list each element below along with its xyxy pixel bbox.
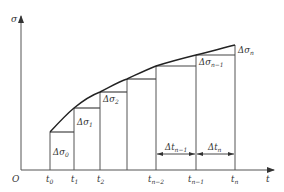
svg-text:Δtn: Δtn [207,142,222,153]
svg-text:t2: t2 [97,174,104,185]
delta-sigma-2-label: Δσ2 [102,94,119,105]
tick-label-t-n-minus-2: tn−2 [148,174,164,185]
tick-label-t0: t0 [46,174,53,185]
delta-t-n-label: Δtn [207,142,222,153]
stress-time-step-diagram: σ t O t0 t1 t2 tn−2 tn−1 tn Δσ0 Δσ1 Δσ2 [0,0,284,192]
svg-text:tn−2: tn−2 [148,174,164,185]
tick-label-t-n: tn [231,174,238,185]
delta-sigma-1-label: Δσ1 [76,117,93,128]
y-axis-label: σ [11,14,18,24]
diagram-canvas: σ t O t0 t1 t2 tn−2 tn−1 tn Δσ0 Δσ1 Δσ2 [0,0,284,192]
svg-text:Δσn−1: Δσn−1 [198,57,224,68]
svg-text:Δσ2: Δσ2 [102,94,119,105]
svg-text:t1: t1 [71,174,78,185]
tick-label-t-n-minus-1: tn−1 [188,174,204,185]
x-axis-label: t [266,174,270,184]
svg-text:Δσn: Δσn [237,45,254,56]
svg-text:t0: t0 [46,174,53,185]
svg-text:tn: tn [231,174,238,185]
svg-text:Δσ1: Δσ1 [76,117,93,128]
tick-label-t2: t2 [97,174,104,185]
delta-t-n-minus-1-label: Δtn−1 [164,142,187,153]
tick-label-t1: t1 [71,174,78,185]
delta-sigma-n-minus-1-label: Δσn−1 [198,57,224,68]
delta-sigma-0-label: Δσ0 [52,147,69,158]
svg-text:tn−1: tn−1 [188,174,204,185]
svg-text:Δσ0: Δσ0 [52,147,69,158]
origin-label: O [12,174,20,184]
svg-text:Δtn−1: Δtn−1 [164,142,187,153]
delta-sigma-n-label: Δσn [237,45,254,56]
